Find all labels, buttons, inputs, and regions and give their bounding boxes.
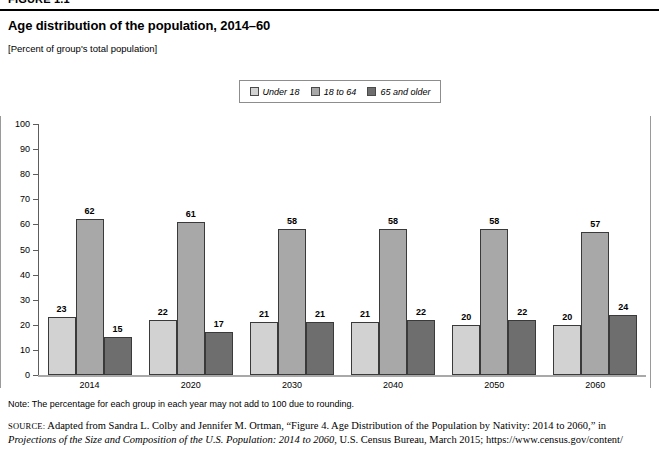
bar-slot: 21 bbox=[306, 124, 334, 375]
bar-slot: 62 bbox=[76, 124, 104, 375]
bar[interactable]: 21 bbox=[250, 322, 278, 375]
chart-subtitle: [Percent of group's total population] bbox=[8, 43, 157, 54]
bar-slot: 58 bbox=[379, 124, 407, 375]
y-axis-tick-label: 80 bbox=[0, 170, 30, 179]
bar-value-label: 20 bbox=[562, 313, 572, 322]
bar-slot: 22 bbox=[407, 124, 435, 375]
legend-label-under-18: Under 18 bbox=[263, 87, 300, 97]
chart-note: Note: The percentage for each group in e… bbox=[8, 399, 354, 409]
bar-value-label: 22 bbox=[517, 308, 527, 317]
bar-value-label: 58 bbox=[489, 217, 499, 226]
bar-slot: 20 bbox=[452, 124, 480, 375]
y-axis-tick-label: 30 bbox=[0, 296, 30, 305]
bar-slot: 22 bbox=[508, 124, 536, 375]
bar-value-label: 58 bbox=[287, 217, 297, 226]
header-divider bbox=[0, 9, 659, 11]
bar[interactable]: 23 bbox=[48, 317, 76, 375]
source-word: SOURCE: bbox=[8, 421, 45, 431]
bar-slot: 22 bbox=[149, 124, 177, 375]
source-title-italic: Projections of the Size and Composition … bbox=[8, 434, 334, 445]
bar-slot: 21 bbox=[250, 124, 278, 375]
bar-value-label: 23 bbox=[57, 305, 67, 314]
bar-value-label: 21 bbox=[315, 310, 325, 319]
legend-label-65-and-older: 65 and older bbox=[380, 87, 430, 97]
bar-slot: 17 bbox=[205, 124, 233, 375]
bar-group: 215821 bbox=[250, 124, 334, 375]
bar-group: 205822 bbox=[452, 124, 536, 375]
bar-value-label: 24 bbox=[618, 303, 628, 312]
bar-value-label: 15 bbox=[113, 325, 123, 334]
bar-value-label: 57 bbox=[590, 220, 600, 229]
x-axis-tick-label: 2060 bbox=[552, 380, 638, 390]
y-axis-tick-label: 90 bbox=[0, 145, 30, 154]
bar[interactable]: 57 bbox=[581, 232, 609, 375]
bar[interactable]: 20 bbox=[452, 325, 480, 375]
bar-slot: 57 bbox=[581, 124, 609, 375]
x-axis-tick-label: 2040 bbox=[350, 380, 436, 390]
legend-swatch-under-18 bbox=[250, 87, 259, 96]
bar-group: 236215 bbox=[48, 124, 132, 375]
bar-group: 205724 bbox=[553, 124, 637, 375]
bar-groups-container: 236215226117215821215822205822205724 bbox=[39, 124, 646, 375]
bar[interactable]: 58 bbox=[480, 229, 508, 375]
bar[interactable]: 22 bbox=[407, 320, 435, 375]
source-text-2: , U.S. Census Bureau, March 2015; https:… bbox=[334, 434, 623, 445]
y-axis-tick-label: 40 bbox=[0, 271, 30, 280]
bar-value-label: 22 bbox=[158, 308, 168, 317]
chart-source: SOURCE: Adapted from Sandra L. Colby and… bbox=[8, 419, 653, 447]
bar-slot: 20 bbox=[553, 124, 581, 375]
legend-swatch-18-to-64 bbox=[311, 87, 320, 96]
bar-value-label: 62 bbox=[85, 207, 95, 216]
page-title: Age distribution of the population, 2014… bbox=[8, 18, 270, 33]
bar[interactable]: 62 bbox=[76, 219, 104, 375]
y-axis-tick-label: 70 bbox=[0, 195, 30, 204]
x-axis-labels: 201420202030204020502060 bbox=[39, 380, 646, 390]
bar-slot: 24 bbox=[609, 124, 637, 375]
bar[interactable]: 58 bbox=[379, 229, 407, 375]
x-axis-tick-label: 2050 bbox=[451, 380, 537, 390]
bar[interactable]: 61 bbox=[177, 222, 205, 375]
bar[interactable]: 17 bbox=[205, 332, 233, 375]
bar[interactable]: 24 bbox=[609, 315, 637, 375]
bar-value-label: 17 bbox=[214, 320, 224, 329]
bar-value-label: 20 bbox=[461, 313, 471, 322]
source-text-1: Adapted from Sandra L. Colby and Jennife… bbox=[45, 420, 606, 431]
bar[interactable]: 22 bbox=[149, 320, 177, 375]
y-axis-tick-label: 10 bbox=[0, 346, 30, 355]
bar-value-label: 21 bbox=[259, 310, 269, 319]
legend-item-under-18: Under 18 bbox=[250, 87, 300, 97]
bar-slot: 15 bbox=[104, 124, 132, 375]
figure-tag: FIGURE 1.1 bbox=[8, 0, 70, 5]
x-axis-tick-label: 2014 bbox=[47, 380, 133, 390]
bar-slot: 61 bbox=[177, 124, 205, 375]
x-axis-tick-label: 2020 bbox=[148, 380, 234, 390]
y-axis-tick-label: 20 bbox=[0, 321, 30, 330]
y-axis-tick-label: 100 bbox=[0, 120, 30, 129]
chart-plot-area: 1009080706050403020100 23621522611721582… bbox=[0, 116, 659, 388]
bar-group: 215822 bbox=[351, 124, 435, 375]
chart-legend: Under 18 18 to 64 65 and older bbox=[239, 80, 441, 103]
bar[interactable]: 21 bbox=[351, 322, 379, 375]
y-axis-tick-label: 60 bbox=[0, 220, 30, 229]
legend-item-65-and-older: 65 and older bbox=[367, 87, 430, 97]
bar-group: 226117 bbox=[149, 124, 233, 375]
x-axis-tick-label: 2030 bbox=[249, 380, 335, 390]
bar-value-label: 21 bbox=[360, 310, 370, 319]
bar[interactable]: 15 bbox=[104, 337, 132, 375]
legend-item-18-to-64: 18 to 64 bbox=[311, 87, 357, 97]
bar[interactable]: 21 bbox=[306, 322, 334, 375]
bar[interactable]: 22 bbox=[508, 320, 536, 375]
bar-slot: 21 bbox=[351, 124, 379, 375]
legend-label-18-to-64: 18 to 64 bbox=[324, 87, 357, 97]
bar-value-label: 58 bbox=[388, 217, 398, 226]
bar[interactable]: 58 bbox=[278, 229, 306, 375]
bar-slot: 58 bbox=[480, 124, 508, 375]
bar[interactable]: 20 bbox=[553, 325, 581, 375]
x-axis-line bbox=[38, 375, 646, 377]
bar-value-label: 22 bbox=[416, 308, 426, 317]
y-axis-tick-label: 50 bbox=[0, 246, 30, 255]
bar-value-label: 61 bbox=[186, 210, 196, 219]
bar-slot: 23 bbox=[48, 124, 76, 375]
bar-slot: 58 bbox=[278, 124, 306, 375]
legend-swatch-65-and-older bbox=[367, 87, 376, 96]
